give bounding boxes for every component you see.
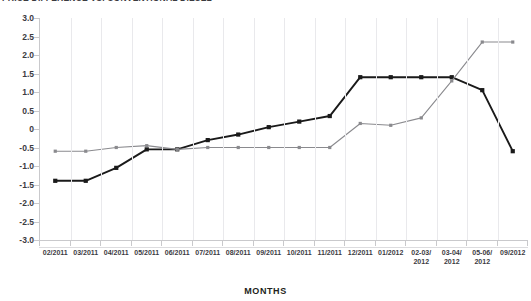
grid-line bbox=[345, 18, 346, 240]
y-tick-label: -2.5 bbox=[19, 217, 34, 227]
x-tick-label: 11/2011 bbox=[317, 248, 342, 257]
data-point-marker bbox=[450, 79, 453, 82]
x-tick-mark bbox=[70, 240, 71, 246]
grid-line bbox=[101, 18, 102, 240]
grid-line bbox=[467, 18, 468, 240]
x-tick-label: 03-04/ 2012 bbox=[442, 248, 462, 266]
y-tick-mark bbox=[34, 185, 39, 186]
grid-line bbox=[498, 18, 499, 240]
y-tick-label: -0.5 bbox=[19, 143, 34, 153]
data-point-marker bbox=[84, 179, 88, 183]
data-point-marker bbox=[420, 116, 423, 119]
grid-line bbox=[162, 18, 163, 240]
y-tick-label: 1.5 bbox=[22, 69, 34, 79]
x-tick-mark bbox=[192, 240, 193, 246]
x-tick-mark bbox=[253, 240, 254, 246]
y-tick-label: -3.0 bbox=[19, 235, 34, 245]
y-tick-label: -2.0 bbox=[19, 198, 34, 208]
data-point-marker bbox=[115, 146, 118, 149]
grid-line bbox=[223, 18, 224, 240]
data-point-marker bbox=[206, 138, 210, 142]
x-tick-label: 01/2012 bbox=[378, 248, 403, 257]
grid-line bbox=[284, 18, 285, 240]
data-point-marker bbox=[419, 75, 423, 79]
y-tick-label: 3.0 bbox=[22, 13, 34, 23]
y-tick-mark bbox=[34, 148, 39, 149]
x-tick-label: 10/2011 bbox=[287, 248, 312, 257]
y-tick-mark bbox=[34, 166, 39, 167]
x-tick-label: 08/2011 bbox=[226, 248, 251, 257]
grid-line bbox=[406, 18, 407, 240]
data-point-marker bbox=[389, 124, 392, 127]
data-point-marker bbox=[84, 150, 87, 153]
x-tick-label: 12/2011 bbox=[348, 248, 373, 257]
plot-area bbox=[40, 18, 528, 240]
y-tick-mark bbox=[34, 74, 39, 75]
y-tick-mark bbox=[34, 222, 39, 223]
grid-line bbox=[376, 18, 377, 240]
grid-line bbox=[254, 18, 255, 240]
data-point-marker bbox=[237, 146, 240, 149]
x-tick-mark bbox=[527, 240, 528, 246]
data-point-marker bbox=[511, 149, 515, 153]
data-point-marker bbox=[267, 125, 271, 129]
x-tick-mark bbox=[436, 240, 437, 246]
x-axis-labels: 02/201103/201104/201105/201106/201107/20… bbox=[0, 248, 531, 282]
data-point-marker bbox=[114, 166, 118, 170]
x-tick-label: 09/2011 bbox=[256, 248, 281, 257]
grid-line bbox=[71, 18, 72, 240]
data-point-marker bbox=[145, 144, 148, 147]
data-point-marker bbox=[358, 75, 362, 79]
grid-line bbox=[193, 18, 194, 240]
data-point-marker bbox=[176, 148, 179, 151]
x-tick-label: 05-06/ 2012 bbox=[472, 248, 492, 266]
grid-line bbox=[132, 18, 133, 240]
data-point-marker bbox=[481, 40, 484, 43]
chart-title: PRICE DIFFERENCE VS. CONVENTIONAL DIESEL bbox=[2, 0, 212, 3]
x-tick-mark bbox=[222, 240, 223, 246]
chart-container: PRICE DIFFERENCE VS. CONVENTIONAL DIESEL… bbox=[0, 0, 531, 301]
x-tick-label: 05/2011 bbox=[134, 248, 159, 257]
data-point-marker bbox=[511, 40, 514, 43]
x-tick-label: 02-03/ 2012 bbox=[411, 248, 431, 266]
data-point-marker bbox=[328, 146, 331, 149]
x-tick-mark bbox=[405, 240, 406, 246]
y-tick-mark bbox=[34, 37, 39, 38]
x-tick-mark bbox=[344, 240, 345, 246]
y-tick-label: 2.5 bbox=[22, 32, 34, 42]
data-point-marker bbox=[54, 150, 57, 153]
y-tick-mark bbox=[34, 92, 39, 93]
y-tick-label: 1.0 bbox=[22, 87, 34, 97]
data-point-marker bbox=[297, 120, 301, 124]
y-tick-mark bbox=[34, 203, 39, 204]
y-tick-mark bbox=[34, 18, 39, 19]
x-tick-mark bbox=[39, 240, 40, 246]
y-axis-labels: 3.02.52.01.51.00.50-0.5-1.0-1.5-2.0-2.5-… bbox=[0, 18, 34, 240]
data-point-marker bbox=[389, 75, 393, 79]
data-point-marker bbox=[53, 179, 57, 183]
x-tick-mark bbox=[375, 240, 376, 246]
x-tick-label: 07/2011 bbox=[195, 248, 220, 257]
y-tick-mark bbox=[34, 129, 39, 130]
x-tick-mark bbox=[100, 240, 101, 246]
data-point-marker bbox=[359, 122, 362, 125]
x-tick-label: 04/2011 bbox=[104, 248, 129, 257]
grid-line bbox=[437, 18, 438, 240]
grid-line bbox=[315, 18, 316, 240]
x-axis-title: MONTHS bbox=[0, 286, 531, 296]
x-tick-label: 09/2012 bbox=[500, 248, 525, 257]
y-tick-label: 2.0 bbox=[22, 50, 34, 60]
data-point-marker bbox=[267, 146, 270, 149]
y-tick-mark bbox=[34, 111, 39, 112]
x-tick-mark bbox=[314, 240, 315, 246]
data-point-marker bbox=[145, 147, 149, 151]
data-point-marker bbox=[480, 88, 484, 92]
y-tick-label: 0.5 bbox=[22, 106, 34, 116]
y-tick-label: -1.5 bbox=[19, 180, 34, 190]
y-tick-label: -1.0 bbox=[19, 161, 34, 171]
x-tick-mark bbox=[161, 240, 162, 246]
x-tick-mark bbox=[497, 240, 498, 246]
data-point-marker bbox=[236, 132, 240, 136]
x-tick-label: 06/2011 bbox=[165, 248, 190, 257]
x-tick-mark bbox=[283, 240, 284, 246]
